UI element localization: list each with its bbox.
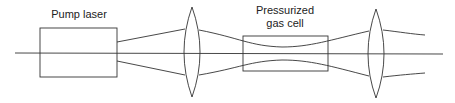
gas-cell-label-line1: Pressurized: [256, 4, 314, 16]
gas-cell-label-line2: gas cell: [266, 17, 303, 29]
optical-setup-diagram: Pump laser Pressurized gas cell: [0, 0, 455, 103]
lens-1: [184, 7, 200, 97]
beam-lower-3: [383, 73, 425, 77]
beam-upper-1: [117, 29, 185, 42]
pump-laser-label: Pump laser: [51, 8, 107, 20]
pump-laser-box: [40, 28, 117, 77]
beam-upper-3: [383, 30, 425, 35]
beam-upper-2: [199, 30, 369, 47]
beam-lower-1: [117, 61, 185, 75]
beam-lower-2: [199, 60, 369, 76]
optical-axis: [15, 53, 443, 54]
